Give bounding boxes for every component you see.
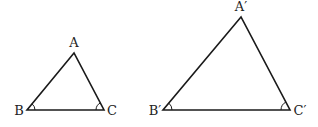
label-c: C [107, 103, 117, 118]
angle-mark-c [96, 103, 100, 110]
similar-triangles-diagram: A B C A′ B′ C′ [0, 0, 318, 127]
label-a-prime: A′ [234, 0, 247, 14]
triangle-a-prime-b-prime-c-prime: A′ B′ C′ [149, 0, 307, 118]
angle-mark-b-prime [169, 103, 172, 110]
label-b-prime: B′ [149, 103, 162, 118]
label-a: A [68, 35, 79, 50]
angle-mark-c-prime [281, 102, 286, 110]
angle-mark-b [32, 104, 35, 110]
label-b: B [14, 103, 24, 118]
triangle-abc-outline [27, 53, 104, 110]
triangle-a-prime-outline [163, 17, 290, 110]
triangle-abc: A B C [14, 35, 117, 118]
label-c-prime: C′ [294, 103, 307, 118]
